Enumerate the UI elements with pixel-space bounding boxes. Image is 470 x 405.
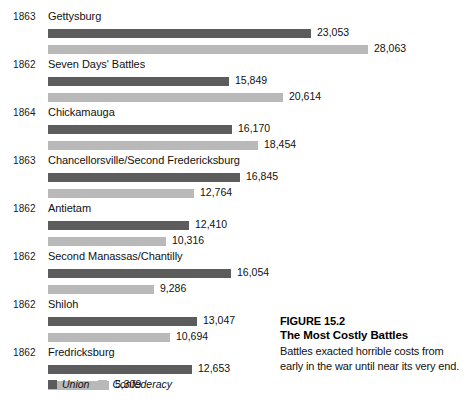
union-bar-value: 16,845 [246,170,278,182]
battle-row: 1864Chickamauga16,17018,454 [0,106,470,154]
union-bar [48,317,197,326]
battle-year: 1862 [13,203,36,214]
union-bar-value: 23,053 [317,26,349,38]
confederacy-bar-line: 18,454 [0,140,470,154]
battle-name: Gettysburg [48,10,101,22]
chart-legend: Union Confederacy [48,378,172,390]
confederacy-bar-value: 12,764 [200,186,232,198]
union-bar-value: 12,653 [198,362,230,374]
confederacy-bar [48,45,368,54]
battle-name: Fredricksburg [48,346,115,358]
legend-swatch-union-icon [48,380,57,389]
battle-year: 1862 [13,251,36,262]
costly-battles-figure: 1863Gettysburg23,05328,0631862Seven Days… [0,0,470,405]
legend-label-confederacy: Confederacy [112,378,172,390]
confederacy-bar-line: 28,063 [0,44,470,58]
battle-row: 1862Antietam12,41010,316 [0,202,470,250]
union-bar [48,125,232,134]
union-bar [48,221,189,230]
union-bar-value: 13,047 [203,314,235,326]
union-bar-line: 16,170 [0,124,470,138]
union-bar-value: 15,849 [235,74,267,86]
confederacy-bar-value: 20,614 [289,90,321,102]
caption-figure-number: FIGURE 15.2 [280,314,460,328]
confederacy-bar-line: 20,614 [0,92,470,106]
battle-row: 1862Seven Days' Battles15,84920,614 [0,58,470,106]
battle-row: 1863Chancellorsville/Second Fredericksbu… [0,154,470,202]
battle-name: Seven Days' Battles [48,58,145,70]
union-bar-line: 12,410 [0,220,470,234]
confederacy-bar [48,285,154,294]
battle-row-header: 1862Second Manassas/Chantilly [0,250,470,266]
battle-row: 1863Gettysburg23,05328,063 [0,10,470,58]
battle-year: 1862 [13,299,36,310]
union-bar-line: 15,849 [0,76,470,90]
union-bar [48,365,192,374]
battle-name: Antietam [48,202,91,214]
legend-swatch-confederacy-icon [98,380,107,389]
battle-name: Shiloh [48,298,78,310]
battle-row-header: 1863Gettysburg [0,10,470,26]
caption-title: The Most Costly Battles [280,328,460,343]
confederacy-bar [48,141,258,150]
union-bar-value: 16,170 [238,122,270,134]
union-bar-line: 23,053 [0,28,470,42]
battle-year: 1863 [13,155,36,166]
confederacy-bar-value: 10,316 [172,234,204,246]
union-bar [48,173,240,182]
confederacy-bar-line: 12,764 [0,188,470,202]
union-bar [48,77,229,86]
caption-body: Battles exacted horrible costs from earl… [280,344,460,373]
union-bar-line: 16,845 [0,172,470,186]
battle-row-header: 1862Seven Days' Battles [0,58,470,74]
battle-name: Chancellorsville/Second Fredericksburg [48,154,240,166]
union-bar-value: 12,410 [195,218,227,230]
confederacy-bar [48,333,170,342]
confederacy-bar-line: 10,316 [0,236,470,250]
battle-row-header: 1862Shiloh [0,298,470,314]
battle-row-header: 1863Chancellorsville/Second Fredericksbu… [0,154,470,170]
legend-label-union: Union [62,378,89,390]
confederacy-bar-value: 9,286 [160,282,186,294]
union-bar-line: 16,054 [0,268,470,282]
battle-row-header: 1864Chickamauga [0,106,470,122]
confederacy-bar-value: 18,454 [264,138,296,150]
battle-name: Chickamauga [48,106,115,118]
battle-year: 1862 [13,347,36,358]
figure-caption: FIGURE 15.2 The Most Costly Battles Batt… [280,314,460,373]
confederacy-bar [48,93,283,102]
battle-year: 1864 [13,107,36,118]
confederacy-bar-line: 9,286 [0,284,470,298]
battle-year: 1863 [13,11,36,22]
battle-row: 1862Second Manassas/Chantilly16,0549,286 [0,250,470,298]
confederacy-bar [48,237,166,246]
union-bar [48,269,231,278]
battle-name: Second Manassas/Chantilly [48,250,183,262]
confederacy-bar [48,189,194,198]
battle-year: 1862 [13,59,36,70]
legend-item-confederacy: Confederacy [98,378,172,390]
legend-item-union: Union [48,378,89,390]
battle-row-header: 1862Antietam [0,202,470,218]
union-bar-value: 16,054 [237,266,269,278]
confederacy-bar-value: 10,694 [176,330,208,342]
confederacy-bar-value: 28,063 [374,42,406,54]
union-bar [48,29,311,38]
